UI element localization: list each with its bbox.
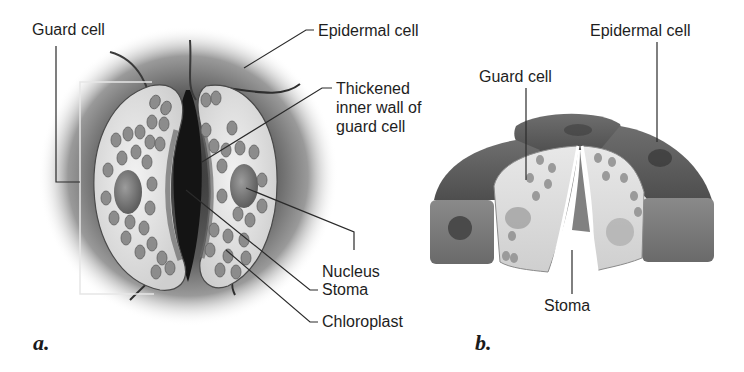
nucleus-right [230, 164, 258, 208]
label-nucleus: Nucleus [322, 262, 380, 281]
panel-letter-b: b. [475, 330, 492, 356]
epidermal-nucleus-left [448, 216, 472, 240]
label-stoma-b: Stoma [544, 296, 590, 315]
epidermal-cell-right-face [642, 198, 714, 262]
nucleus-left [114, 170, 142, 214]
label-guard-cell-b: Guard cell [479, 67, 552, 86]
label-stoma-a: Stoma [322, 280, 368, 299]
guard-nucleus-b-right [606, 218, 634, 246]
panel-letter-a: a. [33, 330, 50, 356]
label-chloroplast: Chloroplast [322, 312, 403, 331]
label-epidermal-cell-a: Epidermal cell [318, 21, 418, 40]
panel-b-illustration [430, 42, 714, 294]
label-thickened-inner-wall: Thickened inner wall of guard cell [336, 79, 421, 136]
label-epidermal-cell-b: Epidermal cell [590, 21, 690, 40]
epidermal-nucleus-right [648, 149, 672, 167]
label-guard-cell-a: Guard cell [32, 20, 105, 39]
panel-a-illustration [38, 26, 354, 326]
stomata-figure: Guard cell Epidermal cell Thickened inne… [0, 0, 744, 372]
guard-nucleus-b-left [505, 207, 531, 229]
